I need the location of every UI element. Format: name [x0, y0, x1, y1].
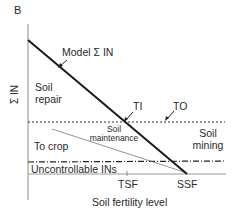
y-axis-label: Σ IN [9, 85, 21, 104]
model-sum-in-line [28, 40, 187, 174]
to-label: TO [173, 100, 187, 112]
panel-label: B [14, 4, 21, 16]
soil-repair-label: Soil repair [35, 81, 62, 105]
soil-mining-label: Soil mining [188, 127, 228, 151]
to-crop-label: To crop [34, 140, 68, 152]
uncontrollable-dashdot-line [28, 161, 226, 162]
soil-mining-line1: Soil [188, 127, 228, 139]
uncontrollable-ins-label: Uncontrollable INs [31, 163, 117, 175]
ti-label: TI [133, 100, 142, 112]
soil-repair-line2: repair [35, 93, 62, 105]
soil-maintenance-label: Soil maintenance [88, 125, 140, 143]
ssf-label: SSF [177, 178, 197, 190]
soil-repair-line1: Soil [35, 81, 62, 93]
model-line-label: Model Σ IN [62, 46, 113, 58]
soil-maintenance-line2: maintenance [88, 134, 140, 143]
soil-mining-line2: mining [188, 139, 228, 151]
x-axis-label: Soil fertility level [92, 196, 167, 208]
tsf-label: TSF [118, 178, 138, 190]
